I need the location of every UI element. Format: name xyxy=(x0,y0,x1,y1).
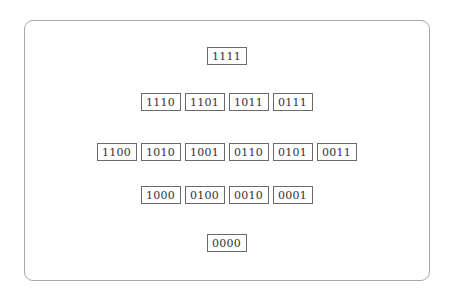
node-box: 0001 xyxy=(273,186,313,204)
node-box: 1111 xyxy=(207,47,247,65)
node-box: 1000 xyxy=(141,186,181,204)
node-box: 1010 xyxy=(141,143,181,161)
node-box: 0011 xyxy=(317,143,357,161)
level-4-row: 1111 xyxy=(0,47,453,65)
node-box: 0010 xyxy=(229,186,269,204)
node-box: 1100 xyxy=(97,143,137,161)
node-box: 0100 xyxy=(185,186,225,204)
node-box: 0111 xyxy=(273,93,313,111)
node-box: 0000 xyxy=(207,234,247,252)
level-2-row: 1100 1010 1001 0110 0101 0011 xyxy=(0,143,453,161)
level-3-row: 1110 1101 1011 0111 xyxy=(0,93,453,111)
node-box: 1011 xyxy=(229,93,269,111)
node-box: 0110 xyxy=(229,143,269,161)
node-box: 0101 xyxy=(273,143,313,161)
node-box: 1101 xyxy=(185,93,225,111)
node-box: 1110 xyxy=(141,93,181,111)
level-0-row: 0000 xyxy=(0,234,453,252)
level-1-row: 1000 0100 0010 0001 xyxy=(0,186,453,204)
node-box: 1001 xyxy=(185,143,225,161)
